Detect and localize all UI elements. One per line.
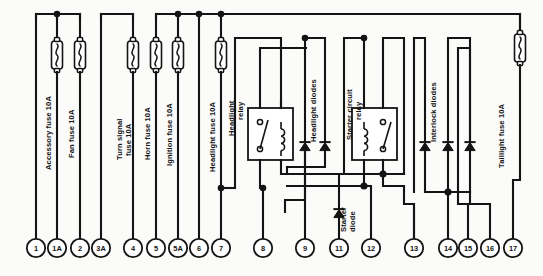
junction-dot [361, 35, 368, 42]
headlight-relay-body [248, 108, 293, 160]
diode-interlock-2 [442, 142, 453, 151]
diode-interlock-1 [419, 142, 430, 151]
terminal-5a[interactable]: 5A [169, 239, 187, 257]
terminal-2[interactable]: 2 [71, 239, 89, 257]
fuse-symbol-fan [75, 38, 86, 73]
terminal-5a-label: 5A [173, 244, 183, 253]
junction-dot [444, 188, 451, 195]
diode-headlight-1 [299, 142, 310, 151]
fuse-symbol-ignition [173, 38, 184, 73]
terminal-8[interactable]: 8 [254, 239, 272, 257]
fuse-column-7-headlight [216, 14, 227, 238]
terminal-8-label: 8 [261, 244, 265, 253]
label-starter-diode-line2: diode [348, 211, 357, 232]
terminal-15-label: 15 [464, 244, 472, 253]
fuse-column-2 [75, 14, 86, 238]
interlock-diodes-group [414, 38, 490, 238]
label-taillight-fuse: Taillight fuse 10A [497, 103, 506, 168]
terminal-9[interactable]: 9 [296, 239, 314, 257]
label-starter-relay-line2: relay [354, 101, 363, 120]
label-accessory-fuse: Accessory fuse 10A [44, 96, 53, 170]
label-interlock-diodes: Interlock diodes [429, 82, 438, 142]
terminal-4[interactable]: 4 [124, 239, 142, 257]
terminal-14-label: 14 [444, 244, 453, 253]
terminal-2-label: 2 [78, 244, 82, 253]
terminal-15[interactable]: 15 [459, 239, 477, 257]
terminal-13-label: 13 [410, 244, 418, 253]
label-starter-diode-line1: Starter [339, 207, 348, 232]
headlight-relay-group [221, 38, 340, 238]
terminal-1a[interactable]: 1A [48, 239, 66, 257]
fuse-column-1a [52, 14, 63, 238]
fuse-column-17-taillight [513, 14, 526, 238]
fuse-column-5 [151, 14, 162, 238]
diode-interlock-3 [464, 142, 475, 151]
terminal-row: 1 1A 2 3A 4 5 5A 6 [27, 239, 522, 257]
wiring-schematic-canvas: Accessory fuse 10A Fan fuse 10A Turn sig… [0, 0, 543, 276]
terminal-12[interactable]: 12 [362, 239, 380, 257]
fuse-symbol-turn-signal [128, 38, 139, 73]
relay-contact-no [380, 119, 385, 124]
terminal-7[interactable]: 7 [212, 239, 230, 257]
terminal-17-label: 17 [509, 244, 517, 253]
terminal-6[interactable]: 6 [190, 239, 208, 257]
label-headlight-relay-line1: Headlight [227, 100, 236, 136]
terminal-1-label: 1 [34, 244, 38, 253]
label-headlight-diodes: Headlight diodes [309, 79, 318, 142]
label-turn-signal-fuse-line2: fuse 10A [124, 123, 133, 156]
terminal-7-label: 7 [219, 244, 223, 253]
label-headlight-relay-line2: relay [236, 101, 245, 120]
terminal-1a-label: 1A [52, 244, 62, 253]
diode-headlight-2 [319, 142, 330, 151]
label-headlight-fuse: Headlight fuse 10A [208, 101, 217, 172]
terminal-12-label: 12 [367, 244, 375, 253]
terminal-9-label: 9 [303, 244, 307, 253]
wiring-diagram: Accessory fuse 10A Fan fuse 10A Turn sig… [0, 0, 543, 276]
label-turn-signal-fuse-line1: Turn signal [115, 119, 124, 160]
label-fan-fuse: Fan fuse 10A [67, 109, 76, 158]
terminal-11[interactable]: 11 [330, 239, 348, 257]
label-ignition-fuse: Ignition fuse 10A [165, 103, 174, 166]
fuse-symbol-taillight [515, 31, 526, 66]
terminal-11-label: 11 [335, 244, 343, 253]
terminal-16[interactable]: 16 [481, 239, 499, 257]
fuse-symbol-horn [151, 38, 162, 73]
terminal-5[interactable]: 5 [147, 239, 165, 257]
fuse-column-5a [173, 14, 184, 238]
relay-contact-no [257, 119, 262, 124]
top-bus-rails [36, 11, 520, 29]
label-horn-fuse: Horn fuse 10A [143, 107, 152, 160]
terminal-13[interactable]: 13 [405, 239, 423, 257]
junction-dot [360, 182, 367, 189]
terminal-5-label: 5 [154, 244, 158, 253]
terminal-1[interactable]: 1 [27, 239, 45, 257]
junction-dot [260, 185, 267, 192]
fuse-symbol-accessory [52, 38, 63, 73]
terminal-16-label: 16 [486, 244, 494, 253]
terminal-3a[interactable]: 3A [92, 239, 110, 257]
terminal-14[interactable]: 14 [439, 239, 457, 257]
label-starter-relay-line1: Starter circuit [345, 89, 354, 140]
terminal-3a-label: 3A [96, 244, 106, 253]
terminal-6-label: 6 [197, 244, 201, 253]
terminal-17[interactable]: 17 [504, 239, 522, 257]
fuse-symbol-headlight [216, 38, 227, 73]
